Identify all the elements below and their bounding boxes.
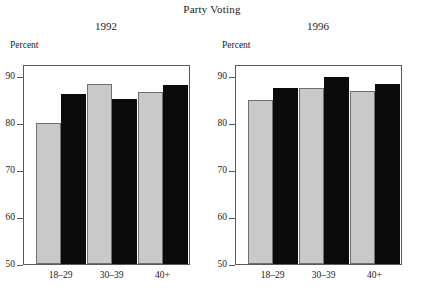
y-tick-label: 70	[0, 166, 15, 176]
y-tick-mark	[17, 218, 23, 219]
bar-group	[248, 64, 299, 264]
y-tick-label: 70	[212, 166, 227, 176]
bar-light	[299, 88, 324, 264]
y-tick-label: 80	[0, 119, 15, 129]
bar-groups	[24, 64, 189, 264]
panel-title: 1992	[0, 20, 212, 32]
y-axis-label: Percent	[222, 40, 251, 50]
bar-dark	[375, 84, 400, 264]
plot-area	[235, 65, 402, 265]
y-tick-label: 60	[212, 213, 227, 223]
bar-light	[248, 100, 273, 264]
x-tick-label: 40+	[133, 270, 193, 280]
y-tick-label: 80	[212, 119, 227, 129]
bar-groups	[236, 64, 401, 264]
y-tick-mark	[17, 124, 23, 125]
plot-area	[23, 65, 190, 265]
y-tick-mark	[17, 77, 23, 78]
panel-title: 1996	[212, 20, 424, 32]
y-tick-mark	[229, 218, 235, 219]
bar-dark	[61, 94, 86, 264]
bar-light	[36, 123, 61, 264]
panel-1996: 1996 Percent 5060708090 18–2930–3940+	[212, 0, 424, 301]
y-tick-mark	[229, 77, 235, 78]
bar-light	[350, 91, 375, 264]
y-tick-label: 50	[212, 260, 227, 270]
bar-group	[87, 64, 138, 264]
y-tick-mark	[229, 265, 235, 266]
x-tick-label: 40+	[345, 270, 405, 280]
bar-dark	[163, 85, 188, 264]
bar-light	[87, 84, 112, 264]
bar-group	[299, 64, 350, 264]
bar-dark	[112, 99, 137, 264]
y-tick-label: 60	[0, 213, 15, 223]
bar-group	[138, 64, 189, 264]
y-tick-label: 90	[212, 72, 227, 82]
figure: Party Voting 1992 Percent 5060708090 18–…	[0, 0, 424, 301]
bar-light	[138, 92, 163, 264]
y-axis-label: Percent	[10, 40, 39, 50]
bar-group	[350, 64, 401, 264]
y-tick-mark	[229, 124, 235, 125]
y-tick-mark	[17, 265, 23, 266]
panel-1992: 1992 Percent 5060708090 18–2930–3940+	[0, 0, 212, 301]
bar-dark	[273, 88, 298, 264]
bar-dark	[324, 77, 349, 264]
y-tick-mark	[229, 171, 235, 172]
y-tick-label: 90	[0, 72, 15, 82]
bar-group	[36, 64, 87, 264]
y-tick-mark	[17, 171, 23, 172]
y-tick-label: 50	[0, 260, 15, 270]
